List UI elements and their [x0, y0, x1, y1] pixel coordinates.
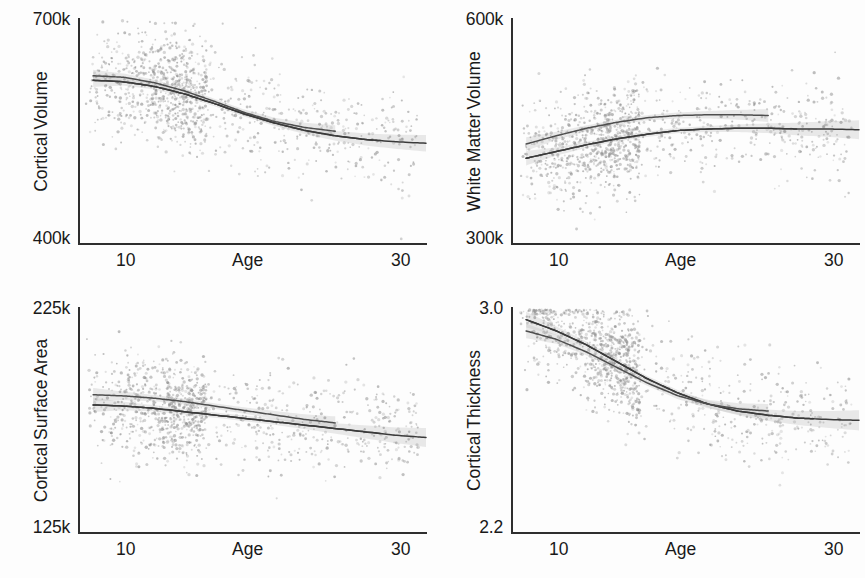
- scatter-point: [315, 141, 317, 143]
- scatter-point: [263, 112, 265, 114]
- scatter-point: [116, 363, 118, 365]
- scatter-point: [631, 337, 634, 340]
- scatter-point: [242, 469, 245, 472]
- scatter-point: [111, 389, 113, 391]
- scatter-point: [557, 316, 559, 318]
- scatter-point: [194, 84, 196, 86]
- scatter-point: [603, 121, 606, 124]
- scatter-point: [623, 322, 626, 325]
- scatter-point: [377, 418, 380, 421]
- scatter-point: [591, 410, 594, 413]
- scatter-point: [617, 131, 620, 134]
- scatter-point: [120, 389, 122, 391]
- scatter-point: [606, 165, 608, 167]
- scatter-point: [103, 425, 106, 428]
- scatter-point: [198, 425, 201, 428]
- scatter-point: [165, 114, 167, 116]
- scatter-point: [88, 411, 91, 414]
- scatter-point: [174, 406, 177, 409]
- scatter-point: [314, 108, 316, 110]
- scatter-point: [320, 393, 322, 395]
- scatter-point: [281, 127, 284, 130]
- scatter-point: [623, 382, 626, 385]
- scatter-point: [248, 95, 250, 97]
- scatter-point: [595, 363, 597, 365]
- scatter-point: [605, 151, 608, 154]
- scatter-point: [224, 100, 226, 102]
- scatter-point: [714, 435, 716, 437]
- scatter-point: [599, 113, 601, 115]
- scatter-point: [529, 198, 531, 200]
- scatter-point: [153, 385, 155, 387]
- scatter-point: [281, 358, 284, 361]
- scatter-point: [183, 466, 185, 468]
- scatter-point: [781, 457, 783, 459]
- scatter-point: [774, 412, 777, 415]
- scatter-point: [830, 394, 832, 396]
- scatter-point: [257, 168, 259, 170]
- scatter-point: [682, 121, 684, 123]
- scatter-point: [524, 369, 526, 371]
- scatter-point: [551, 162, 553, 164]
- scatter-point: [543, 319, 545, 321]
- scatter-point: [712, 419, 715, 422]
- scatter-point: [286, 404, 289, 407]
- scatter-point: [632, 384, 635, 387]
- scatter-point: [167, 94, 169, 96]
- scatter-point: [194, 384, 197, 387]
- scatter-point: [186, 385, 188, 387]
- scatter-point: [671, 119, 674, 122]
- scatter-point: [606, 339, 608, 341]
- scatter-point: [123, 109, 125, 111]
- scatter-point: [395, 429, 397, 431]
- scatter-point: [608, 393, 610, 395]
- scatter-point: [616, 129, 618, 131]
- scatter-point: [614, 325, 616, 327]
- scatter-point: [140, 46, 142, 48]
- scatter-point: [198, 429, 201, 432]
- scatter-point: [320, 412, 323, 415]
- scatter-point: [609, 354, 612, 357]
- scatter-point: [730, 102, 732, 104]
- scatter-point: [380, 179, 382, 181]
- scatter-point: [174, 97, 177, 100]
- scatter-point: [175, 431, 177, 433]
- scatter-point: [137, 353, 139, 355]
- scatter-point: [619, 318, 621, 320]
- scatter-point: [776, 433, 779, 436]
- scatter-point: [256, 141, 259, 144]
- scatter-point: [613, 313, 615, 315]
- scatter-point: [726, 157, 728, 159]
- scatter-point: [782, 387, 784, 389]
- scatter-point: [329, 393, 331, 395]
- scatter-point: [547, 324, 550, 327]
- scatter-point: [311, 453, 314, 456]
- scatter-point: [142, 391, 145, 394]
- scatter-point: [701, 366, 703, 368]
- y-axis-title: Cortical Volume: [14, 19, 68, 244]
- scatter-point: [746, 123, 749, 126]
- scatter-point: [136, 102, 139, 105]
- scatter-point: [638, 94, 640, 96]
- scatter-point: [121, 401, 123, 403]
- scatter-point: [638, 339, 641, 342]
- scatter-point: [844, 144, 846, 146]
- scatter-point: [160, 47, 162, 49]
- scatter-point: [101, 64, 103, 66]
- scatter-point: [591, 149, 593, 151]
- scatter-point: [714, 155, 717, 158]
- scatter-point: [833, 160, 835, 162]
- scatter-point: [107, 38, 110, 41]
- scatter-point: [255, 388, 258, 391]
- scatter-point: [545, 376, 547, 378]
- scatter-point: [705, 163, 707, 165]
- scatter-point: [120, 413, 123, 416]
- scatter-point: [586, 142, 588, 144]
- scatter-point: [238, 126, 241, 129]
- scatter-point: [633, 77, 636, 80]
- scatter-point: [708, 360, 711, 363]
- scatter-plot-svg: [511, 18, 859, 243]
- scatter-point: [850, 404, 852, 406]
- scatter-point: [719, 446, 721, 448]
- scatter-point: [271, 427, 274, 430]
